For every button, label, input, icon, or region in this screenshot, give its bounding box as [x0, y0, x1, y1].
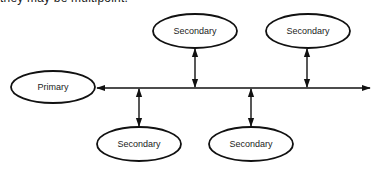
- secondary-node-top-right: Secondary: [266, 14, 350, 48]
- secondary-node-bottom-right: Secondary: [209, 127, 293, 161]
- secondary-node-bottom-left: Secondary: [97, 127, 181, 161]
- primary-node: Primary: [11, 71, 95, 103]
- secondary-node-top-left: Secondary: [153, 14, 237, 48]
- primary-node-label: Primary: [38, 82, 69, 92]
- multipoint-diagram: Primary Secondary Secondary Secondary Se…: [0, 0, 379, 170]
- secondary-node-label: Secondary: [173, 26, 217, 36]
- secondary-node-label: Secondary: [286, 26, 330, 36]
- secondary-node-label: Secondary: [229, 139, 273, 149]
- secondary-node-label: Secondary: [117, 139, 161, 149]
